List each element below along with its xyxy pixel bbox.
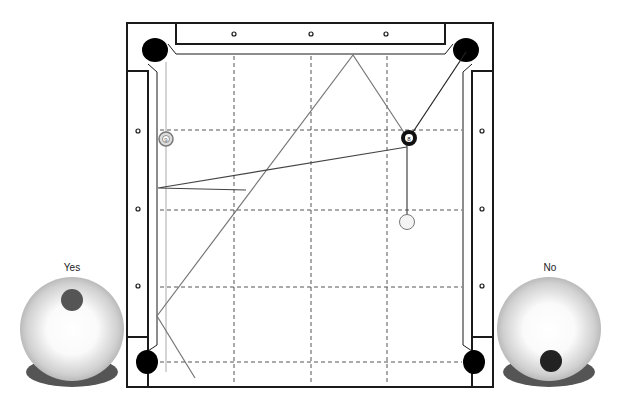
pocket-bottom-right: [463, 350, 485, 374]
cue-tip-example-no: [497, 277, 601, 387]
pocket-bottom-left: [136, 350, 158, 374]
pocket-top-right: [453, 38, 479, 62]
cue-ball: [400, 215, 415, 230]
eight-ball: 8: [401, 130, 417, 146]
yes-label: Yes: [52, 262, 92, 273]
tip-contact-dot: [540, 350, 562, 372]
no-label: No: [530, 262, 570, 273]
nine-ball: 9: [159, 132, 173, 146]
pool-table-diagram: 9 8: [0, 0, 618, 404]
pocket-top-left: [142, 38, 168, 62]
table-frame: [127, 23, 493, 387]
cue-tip-example-yes: [20, 277, 124, 387]
tip-contact-dot: [61, 289, 83, 311]
